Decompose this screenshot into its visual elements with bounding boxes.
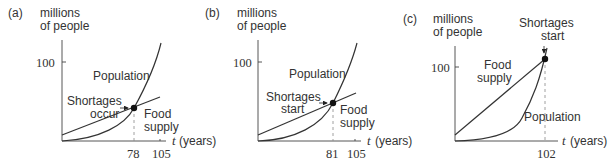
panel-label: (c) [403, 12, 417, 26]
x-axis-unit: (years) [179, 134, 216, 148]
food-supply-label-line2: supply [144, 120, 179, 134]
food-supply-label-line2: supply [340, 116, 375, 130]
y-axis-label-line2: of people [433, 25, 483, 39]
x-tick-label: 102 [537, 147, 556, 161]
x-axis-var: t [172, 133, 176, 148]
y-axis-label-line2: of people [40, 19, 90, 33]
panel-c: (c) millions of people 100 102 t (years)… [403, 12, 607, 161]
annotation-line2: start [281, 102, 305, 116]
y-tick-label: 100 [36, 56, 55, 70]
food-supply-label-line1: Food [340, 103, 367, 117]
y-axis-label-line2: of people [237, 19, 287, 33]
x-axis-var: t [562, 133, 566, 148]
x-tick-label: 81 [326, 147, 339, 161]
population-label: Population [93, 69, 150, 83]
panel-label: (b) [205, 6, 220, 20]
annotation-line2: start [541, 29, 565, 43]
intersection-point [330, 100, 336, 106]
x-axis-var: t [367, 133, 371, 148]
annotation-line1: Shortages [67, 94, 122, 108]
food-supply-label-line1: Food [484, 58, 511, 72]
x-axis-unit: (years) [570, 134, 607, 148]
food-supply-label-line2: supply [477, 71, 512, 85]
y-axis-label-line1: millions [433, 12, 473, 26]
x-tick-label: 105 [152, 147, 171, 161]
x-tick-label: 105 [347, 147, 366, 161]
population-label: Population [524, 110, 581, 124]
y-tick-label: 100 [431, 61, 450, 75]
food-supply-label-line1: Food [144, 107, 171, 121]
intersection-point [131, 105, 137, 111]
x-axis-unit: (years) [375, 134, 412, 148]
y-axis-label-line1: millions [40, 6, 80, 20]
annotation-line2: occur [90, 107, 119, 121]
intersection-point [542, 56, 548, 62]
y-tick-label: 100 [233, 56, 252, 70]
population-label: Population [289, 67, 346, 81]
y-axis-label-line1: millions [237, 6, 277, 20]
panel-label: (a) [8, 6, 23, 20]
panel-a: (a) millions of people 100 78 105 t (yea… [8, 6, 216, 161]
x-tick-label: 78 [127, 147, 140, 161]
food-population-diagrams: (a) millions of people 100 78 105 t (yea… [0, 0, 609, 163]
annotation-line1: Shortages [519, 16, 574, 30]
panel-b: (b) millions of people 100 81 105 t (yea… [205, 6, 412, 161]
